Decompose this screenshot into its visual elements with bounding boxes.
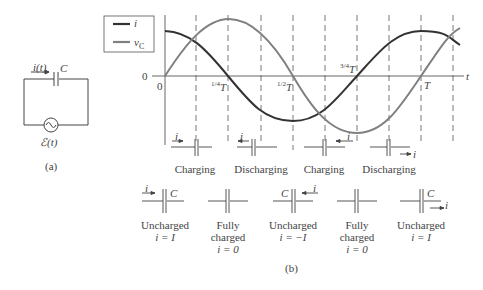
legend-box <box>104 16 154 52</box>
phase-symbols <box>171 139 411 156</box>
phase-label-3: Charging <box>297 163 351 175</box>
y-zero-label: 0 <box>142 70 148 82</box>
state-symbol-3 <box>273 189 318 213</box>
arrow-left-icon <box>302 192 306 195</box>
state-symbol-4 <box>337 189 377 213</box>
legend-label-vc: vC <box>134 36 144 53</box>
phase-label-1: Charging <box>168 163 222 175</box>
state-symbol-5 <box>400 189 444 213</box>
phase-current-1: i <box>175 130 178 142</box>
x-origin-label: 0 <box>157 80 163 92</box>
legend-label-i: i <box>134 17 137 29</box>
state-symbol-1 <box>142 189 184 213</box>
current-label-a: i(t) <box>33 61 46 73</box>
state-current-3: i <box>313 182 316 194</box>
arrow-right-icon <box>440 207 444 210</box>
phase-current-2: i <box>240 130 243 142</box>
circuit-a <box>24 70 88 132</box>
source-label-a: ℰ(t) <box>40 136 57 148</box>
state-cap-3: C <box>281 187 288 199</box>
state-label-5: Unchargedi = I <box>391 219 451 243</box>
phase-current-3: i <box>347 130 350 142</box>
phase-label-4: Discharging <box>359 163 419 175</box>
state-label-2: Fullychargedi = 0 <box>198 219 258 255</box>
caption-a: (a) <box>45 160 57 172</box>
state-label-1: Unchargedi = I <box>135 219 195 243</box>
tick-full: T <box>424 79 430 91</box>
state-symbol-2 <box>208 189 248 213</box>
arrow-right-icon <box>151 192 155 195</box>
arrow-right-icon <box>179 140 183 143</box>
phase-current-4: i <box>413 148 416 160</box>
phase-symbol-4 <box>370 139 411 156</box>
tick-three-quarter: 3/4T <box>340 60 355 75</box>
phase-label-2: Discharging <box>231 163 291 175</box>
x-axis-label: t <box>466 70 469 82</box>
arrow-left-icon <box>336 140 340 143</box>
caption-b: (b) <box>285 262 298 274</box>
phase-symbol-3 <box>304 139 353 156</box>
state-label-4: Fullychargedi = 0 <box>327 219 387 255</box>
state-current-5: i <box>445 199 448 211</box>
state-cap-1: C <box>170 187 177 199</box>
capacitor-label-a: C <box>60 62 67 74</box>
state-current-1: i <box>145 182 148 194</box>
state-cap-5: C <box>427 187 434 199</box>
arrow-right-icon <box>407 153 411 156</box>
tick-quarter: 1/4T <box>211 78 226 93</box>
tick-half: 1/2T <box>277 78 292 93</box>
state-symbols <box>142 189 444 213</box>
state-label-3: Unchargedi = −I <box>263 219 323 243</box>
